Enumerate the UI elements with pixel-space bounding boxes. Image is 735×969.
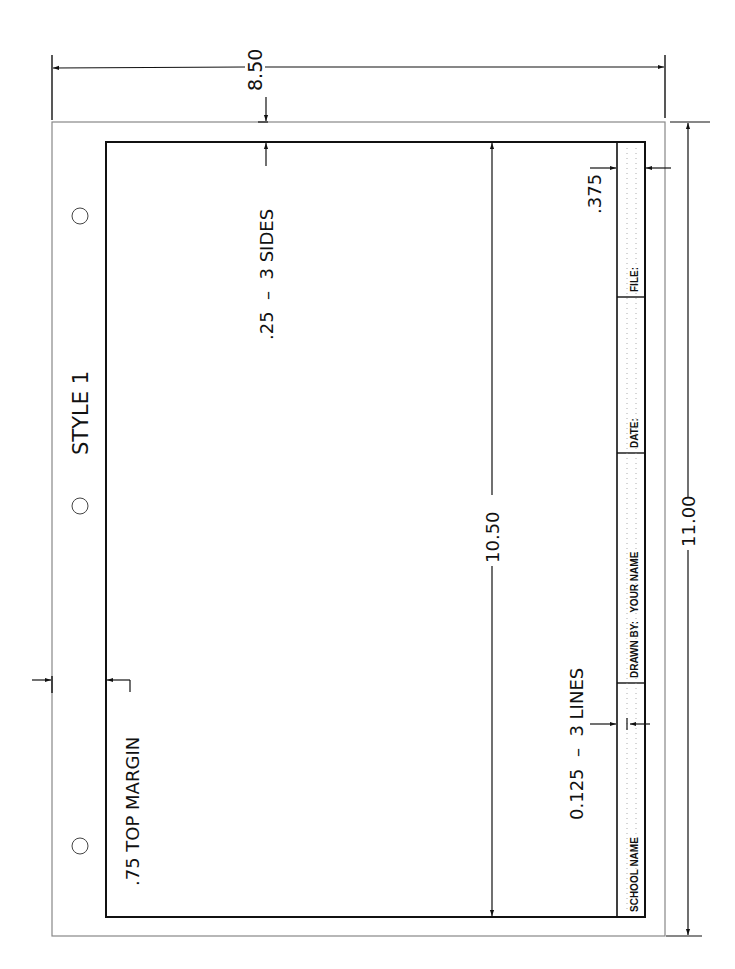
dimension-title-block-height: .375 bbox=[584, 168, 671, 214]
dimension-top-margin: .75 TOP MARGIN bbox=[32, 676, 143, 886]
dimension-border-height: 10.50 bbox=[482, 143, 503, 916]
binder-hole-middle-icon bbox=[72, 498, 88, 514]
title-field-date: DATE: bbox=[629, 418, 640, 448]
dimension-title-block-height-label: .375 bbox=[584, 174, 605, 214]
dimension-sheet-height: 11.00 bbox=[666, 122, 710, 936]
dimension-side-margin-label: .25 – 3 SIDES bbox=[256, 209, 277, 340]
title-field-school-name: SCHOOL NAME bbox=[629, 837, 640, 912]
title-field-file: FILE: bbox=[629, 267, 640, 292]
style-title: STYLE 1 bbox=[69, 371, 93, 455]
dimension-sheet-height-label: 11.00 bbox=[678, 495, 699, 547]
title-field-drawn-by: DRAWN BY: YOUR NAME bbox=[629, 551, 640, 678]
binder-hole-bottom-icon bbox=[72, 838, 88, 854]
dimension-line-spacing: 0.125 – 3 LINES bbox=[566, 668, 650, 820]
title-block: SCHOOL NAME DRAWN BY: YOUR NAME DATE: FI… bbox=[617, 142, 645, 917]
dimension-side-margin: .25 – 3 SIDES bbox=[256, 97, 277, 340]
dimension-sheet-width-label: 8.50 bbox=[244, 49, 266, 91]
dimension-border-height-label: 10.50 bbox=[482, 511, 503, 563]
drawing-inner-border bbox=[106, 142, 645, 917]
drawing-sheet-layout: SCHOOL NAME DRAWN BY: YOUR NAME DATE: FI… bbox=[0, 0, 735, 969]
dimension-top-margin-label: .75 TOP MARGIN bbox=[122, 737, 143, 886]
dimension-line-spacing-label: 0.125 – 3 LINES bbox=[566, 668, 587, 820]
dimension-sheet-width: 8.50 bbox=[52, 49, 665, 120]
binder-hole-top-icon bbox=[72, 208, 88, 224]
